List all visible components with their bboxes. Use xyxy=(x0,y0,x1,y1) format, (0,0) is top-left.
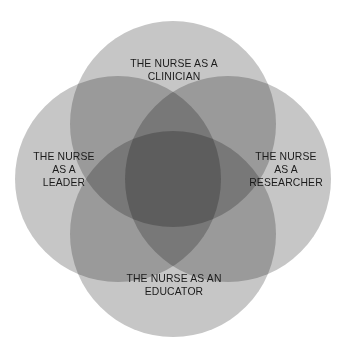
venn-diagram-figure: THE NURSE AS A CLINICIAN THE NURSE AS A … xyxy=(0,0,347,356)
venn-label-educator: THE NURSE AS AN EDUCATOR xyxy=(89,272,259,298)
venn-label-leader: THE NURSE AS A LEADER xyxy=(8,150,120,190)
venn-label-clinician: THE NURSE AS A CLINICIAN xyxy=(93,57,255,83)
venn-label-researcher: THE NURSE AS A RESEARCHER xyxy=(228,150,344,190)
